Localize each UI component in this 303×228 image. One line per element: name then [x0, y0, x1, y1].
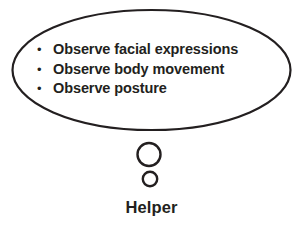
list-item: • Observe posture	[33, 79, 278, 99]
list-item: • Observe body movement	[33, 60, 278, 80]
diagram-canvas	[0, 0, 303, 228]
person-head-icon	[138, 143, 161, 166]
bullet-item-label: Observe posture	[53, 79, 167, 99]
bullet-item-label: Observe facial expressions	[53, 40, 238, 60]
bullet-item-label: Observe body movement	[53, 60, 224, 80]
bullet-point-icon: •	[33, 60, 53, 80]
figure-caption: Helper	[0, 198, 303, 217]
list-item: • Observe facial expressions	[33, 40, 278, 60]
observation-bullet-list: • Observe facial expressions • Observe b…	[33, 40, 278, 99]
thought-bubble-diagram: • Observe facial expressions • Observe b…	[0, 0, 303, 228]
person-body-icon	[143, 172, 157, 186]
bullet-point-icon: •	[33, 79, 53, 99]
bullet-point-icon: •	[33, 40, 53, 60]
